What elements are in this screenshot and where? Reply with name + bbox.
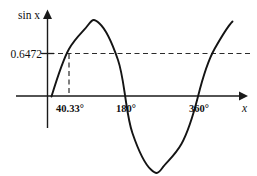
x-axis-arrow-icon [239, 92, 248, 101]
x-tick-label-180: 180° [116, 103, 136, 114]
x-tick-label-40: 40.33° [56, 103, 84, 114]
x-tick-label-360: 360° [189, 103, 209, 114]
x-axis-label: x [241, 102, 248, 114]
sine-graph-figure: sin x x 0.6472 40.33° 180° 360° [0, 0, 257, 176]
y-value-label: 0.6472 [10, 48, 42, 60]
y-axis-arrow-icon [43, 10, 52, 20]
y-axis-label: sin x [18, 9, 40, 21]
sine-plot-svg: sin x x 0.6472 40.33° 180° 360° [0, 0, 257, 176]
